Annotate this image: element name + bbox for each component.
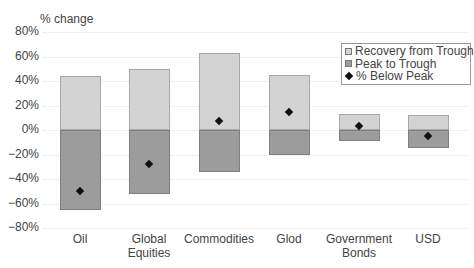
bar-recovery-from-trough	[269, 75, 310, 130]
bar-peak-to-trough	[339, 130, 380, 141]
legend-item-below-peak: % Below Peak	[345, 70, 467, 83]
y-tick-label: 20%	[0, 98, 39, 112]
y-tick-label: −20%	[0, 147, 39, 161]
y-axis-title: % change	[40, 12, 93, 26]
y-tick-label: −80%	[0, 220, 39, 234]
x-tick-label: USD	[383, 232, 473, 246]
y-tick-label: 40%	[0, 73, 39, 87]
gridline	[43, 155, 467, 156]
bar-recovery-from-trough	[408, 115, 449, 130]
legend-swatch-dark-icon	[345, 60, 352, 67]
y-tick-label: −40%	[0, 171, 39, 185]
bar-peak-to-trough	[199, 130, 240, 172]
y-tick-label: −60%	[0, 196, 39, 210]
gridline	[43, 179, 467, 180]
gridline	[43, 228, 467, 229]
diamond-marker-icon	[345, 72, 353, 80]
gridline	[43, 32, 467, 33]
gridline	[43, 130, 467, 131]
legend: Recovery from Trough Peak to Trough % Be…	[341, 43, 471, 85]
legend-item-recovery: Recovery from Trough	[345, 45, 467, 58]
legend-swatch-light-icon	[345, 48, 352, 55]
gridline	[43, 204, 467, 205]
gridline	[43, 106, 467, 107]
y-tick-label: 60%	[0, 49, 39, 63]
legend-label: Recovery from Trough	[355, 45, 474, 58]
legend-label: % Below Peak	[356, 70, 433, 83]
bar-peak-to-trough	[60, 130, 101, 210]
bar-recovery-from-trough	[129, 69, 170, 130]
y-tick-label: 80%	[0, 24, 39, 38]
bar-peak-to-trough	[269, 130, 310, 155]
y-tick-label: 0%	[0, 122, 39, 136]
bar-recovery-from-trough	[60, 76, 101, 130]
